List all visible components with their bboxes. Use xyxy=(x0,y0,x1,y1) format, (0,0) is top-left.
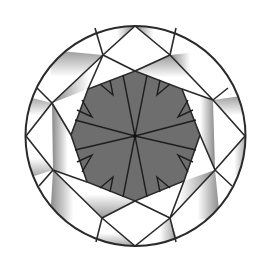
diamond-svg xyxy=(0,0,266,255)
culet-dot xyxy=(133,134,137,138)
diamond-diagram: Round brilliant cut diamond, top view (f… xyxy=(0,0,266,255)
